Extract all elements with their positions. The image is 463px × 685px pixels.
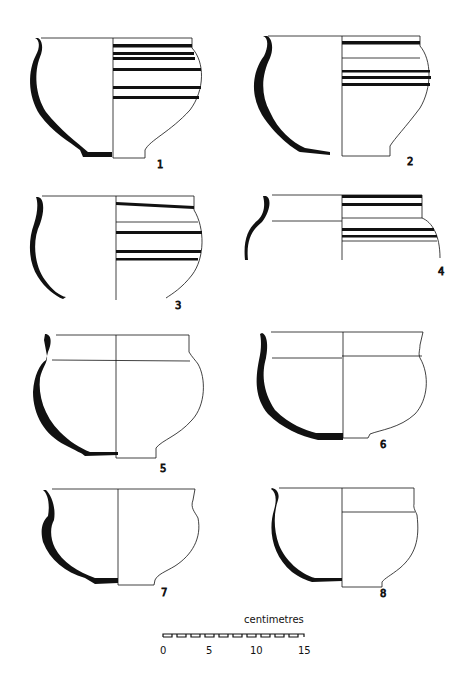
vessel-1-profile [30, 38, 112, 157]
vessel-7: 7 [42, 489, 199, 598]
vessel-2: 2 [254, 36, 431, 167]
vessel-7-profile [42, 490, 118, 584]
pottery-figure: 1 2 3 [0, 0, 463, 685]
vessel-2-number: 2 [407, 156, 413, 167]
vessel-8-number: 8 [380, 588, 386, 599]
vessel-5-number: 5 [160, 463, 166, 474]
vessel-2-profile [254, 36, 330, 155]
vessel-8: 8 [271, 488, 418, 599]
vessel-7-number: 7 [161, 587, 167, 598]
vessel-3: 3 [30, 196, 202, 311]
vessel-6-number: 6 [380, 439, 386, 450]
vessel-6-profile [257, 333, 343, 440]
vessel-3-number: 3 [175, 300, 181, 311]
vessel-4-number: 4 [438, 266, 444, 277]
vessel-1-number: 1 [157, 159, 163, 170]
scale-tick-5: 5 [206, 645, 212, 656]
vessel-8-profile [271, 488, 342, 582]
vessel-6: 6 [257, 332, 427, 450]
vessel-4: 4 [245, 195, 445, 277]
vessel-5-profile [33, 334, 118, 456]
scale-bar: centimetres 0 5 10 15 [160, 614, 311, 656]
vessel-1: 1 [30, 38, 201, 170]
scale-tick-10: 10 [250, 645, 263, 656]
vessel-3-profile [30, 197, 66, 299]
vessel-5: 5 [33, 334, 203, 474]
scale-unit-label: centimetres [244, 614, 304, 625]
scale-tick-0: 0 [160, 645, 166, 656]
scale-tick-15: 15 [298, 645, 311, 656]
vessel-4-profile [245, 196, 270, 260]
